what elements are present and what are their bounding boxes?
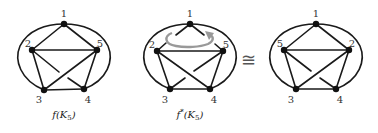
node-4 bbox=[207, 86, 213, 92]
k5-drawings-figure: 1 2 5 3 4 f(K5) 1 2 5 3 bbox=[0, 0, 378, 133]
outer-curve bbox=[18, 24, 110, 90]
edge-1-5 bbox=[64, 24, 97, 50]
node-3 bbox=[41, 87, 47, 93]
label-node-2: 2 bbox=[149, 39, 155, 50]
edge-1-2 bbox=[32, 24, 64, 50]
node-4 bbox=[333, 86, 339, 92]
label-node-3: 3 bbox=[162, 94, 168, 105]
label-node-4: 4 bbox=[85, 94, 91, 105]
label-node-1: 1 bbox=[313, 8, 319, 19]
graph-f-k5: 1 2 5 3 4 f(K5) bbox=[18, 8, 110, 122]
outer-curve bbox=[270, 24, 362, 89]
node-1 bbox=[187, 21, 193, 27]
label-node-1: 1 bbox=[187, 8, 193, 19]
edge-1-2 bbox=[316, 24, 349, 50]
rotation-arrow bbox=[166, 33, 212, 47]
caption-f-k5: f(K5) bbox=[51, 109, 76, 122]
node-4 bbox=[81, 86, 87, 92]
node-1 bbox=[313, 21, 319, 27]
label-node-4: 4 bbox=[211, 94, 217, 105]
edge-3-4 bbox=[44, 89, 84, 90]
congruence-symbol: ≅ bbox=[241, 49, 256, 70]
caption-f-star-k5: f*(K5) bbox=[176, 108, 204, 122]
label-node-5: 5 bbox=[97, 38, 103, 49]
edge-1-5 bbox=[284, 24, 316, 50]
node-3 bbox=[167, 86, 173, 92]
node-1 bbox=[61, 21, 67, 27]
label-node-5: 5 bbox=[223, 39, 229, 50]
label-node-3: 3 bbox=[288, 94, 294, 105]
graph-isomorphic: 1 5 2 3 4 bbox=[270, 8, 362, 105]
edge-3-2 bbox=[296, 50, 349, 89]
graph-f-star-k5: 1 2 5 3 4 f*(K5) bbox=[144, 8, 236, 122]
label-node-3: 3 bbox=[36, 94, 42, 105]
label-node-5: 5 bbox=[277, 38, 283, 49]
label-node-2: 2 bbox=[349, 38, 355, 49]
outer-curve bbox=[144, 24, 236, 89]
node-3 bbox=[293, 86, 299, 92]
label-node-4: 4 bbox=[337, 94, 343, 105]
label-node-1: 1 bbox=[61, 8, 67, 19]
label-node-2: 2 bbox=[25, 38, 31, 49]
edge-2-4 bbox=[157, 51, 210, 89]
edge-3-5-b bbox=[194, 51, 223, 71]
edge-3-5 bbox=[44, 50, 97, 90]
